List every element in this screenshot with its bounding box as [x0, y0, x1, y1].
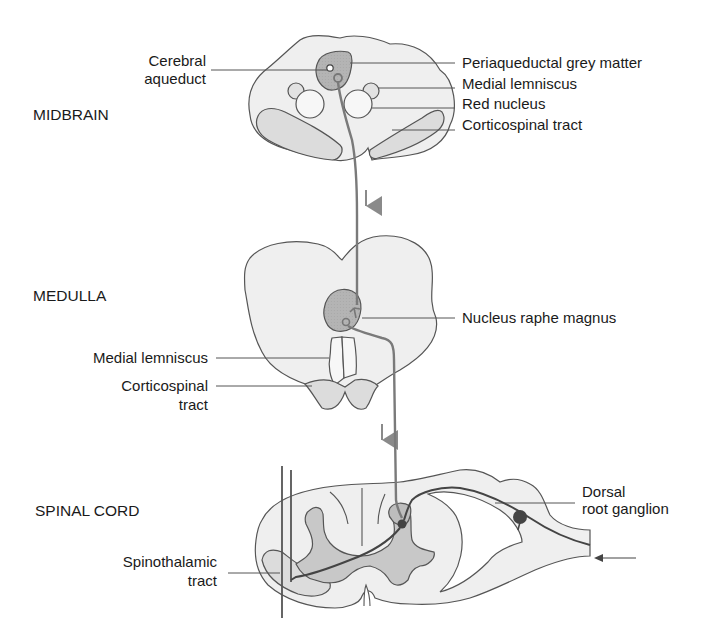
input-arrowhead — [594, 554, 603, 562]
spinal-cord-section: SPINAL CORD Dorsal root ganglion Spinoth… — [35, 466, 669, 618]
label-spinothalamic-1: Spinothalamic — [123, 553, 218, 570]
midbrain-section: MIDBRAIN Cerebral aqueduct Periaqueducta… — [33, 36, 642, 161]
dorsal-horn-neuron — [398, 520, 407, 529]
label-red-nucleus: Red nucleus — [462, 95, 545, 112]
label-nucleus-raphe-magnus: Nucleus raphe magnus — [462, 309, 616, 326]
medulla-medial-lemniscus-right — [342, 337, 356, 378]
label-dorsal-root-ganglion-1: Dorsal — [582, 483, 625, 500]
label-medulla-corticospinal-1: Corticospinal — [121, 377, 208, 394]
section-label-midbrain: MIDBRAIN — [33, 106, 109, 123]
medulla-section: MEDULLA Nucleus raphe magnus Medial lemn… — [33, 236, 616, 413]
label-medulla-corticospinal-2: tract — [179, 396, 209, 413]
label-cerebral-aqueduct-1: Cerebral — [148, 52, 206, 69]
section-label-medulla: MEDULLA — [33, 287, 107, 304]
nucleus-raphe-magnus — [324, 289, 361, 331]
label-spinothalamic-2: tract — [188, 572, 218, 589]
label-midbrain-medial-lemniscus: Medial lemniscus — [462, 75, 577, 92]
label-dorsal-root-ganglion-2: root ganglion — [582, 500, 669, 517]
label-midbrain-corticospinal: Corticospinal tract — [462, 116, 583, 133]
midbrain-red-nucleus-right — [344, 90, 372, 118]
midbrain-red-nucleus-left — [296, 90, 324, 118]
label-cerebral-aqueduct-2: aqueduct — [144, 70, 207, 87]
section-label-spinal-cord: SPINAL CORD — [35, 502, 140, 519]
label-medulla-medial-lemniscus: Medial lemniscus — [93, 349, 208, 366]
descending-pain-pathway-diagram: MIDBRAIN Cerebral aqueduct Periaqueducta… — [0, 0, 704, 633]
label-periaqueductal-grey: Periaqueductal grey matter — [462, 54, 642, 71]
